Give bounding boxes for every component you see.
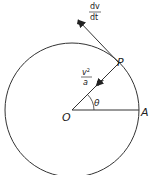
label-theta: θ: [94, 98, 100, 108]
label-p: P: [117, 56, 124, 69]
circular-motion-diagram: θ O A P dv dt v2 a: [0, 0, 153, 175]
label-o: O: [62, 111, 71, 124]
dt-denominator: dt: [90, 13, 98, 22]
double-arrowhead-icon: [97, 80, 104, 86]
tangent-double-arrowhead-icon: [77, 19, 83, 26]
v-squared-numerator: v2: [82, 67, 90, 77]
a-denominator: a: [83, 78, 88, 87]
label-a: A: [140, 106, 149, 119]
tangential-arrow-icon: [79, 21, 119, 63]
dv-numerator: dv: [90, 2, 100, 11]
